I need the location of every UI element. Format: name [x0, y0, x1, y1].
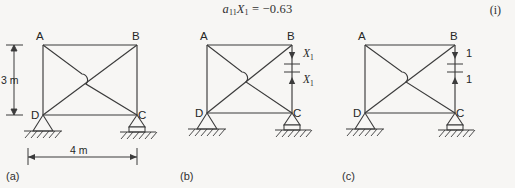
- support-pin-D: [24, 115, 62, 138]
- equation-row: a11X1 = −0.63 (i): [0, 2, 515, 24]
- ground-hatching-C: [439, 130, 475, 137]
- force-arrow-up: [452, 77, 458, 84]
- dim-arrow-bottom: [11, 109, 17, 115]
- node-label-D: D: [195, 107, 203, 119]
- dimension-span: 4 m: [28, 144, 137, 165]
- cut-forces-c: 1 1: [447, 47, 472, 85]
- node-label-D: D: [31, 109, 39, 121]
- panel-caption-c: (c): [342, 170, 355, 182]
- node-label-C: C: [293, 107, 301, 119]
- equation-coefficient-subscript: 11: [229, 8, 237, 17]
- force-label-lower: 1: [466, 73, 472, 85]
- truss-members-b: [207, 45, 292, 113]
- node-label-A: A: [200, 30, 208, 42]
- ground-hatching-D: [25, 131, 61, 138]
- dimension-span-label: 4 m: [70, 144, 88, 156]
- node-label-B: B: [450, 30, 458, 42]
- ground-hatching-D: [347, 129, 383, 136]
- figure-panel-a: 3 m: [0, 28, 172, 188]
- figure-page: a11X1 = −0.63 (i) 3 m: [0, 0, 515, 188]
- dim-arrow-right: [130, 154, 137, 160]
- dim-arrow-top: [11, 45, 17, 51]
- node-label-B: B: [132, 30, 140, 42]
- force-arrow-down: [452, 52, 458, 59]
- figure-panel-b: X1 X1: [172, 28, 340, 188]
- force-label-lower: X1: [302, 73, 314, 88]
- truss-diagram-c: 1 1: [340, 28, 515, 188]
- cut-forces-b: X1 X1: [284, 47, 314, 88]
- ground-hatching-C: [276, 130, 312, 137]
- node-label-A: A: [358, 30, 366, 42]
- truss-diagram-b: X1 X1: [172, 28, 340, 188]
- node-label-A: A: [36, 30, 44, 42]
- equation-expression: a11X1 = −0.63: [0, 2, 515, 17]
- force-label-upper: X1: [302, 47, 314, 62]
- equation-variable: X: [237, 2, 245, 16]
- force-label-upper: 1: [466, 47, 472, 59]
- dim-arrow-left: [28, 154, 35, 160]
- dimension-height: 3 m: [1, 45, 23, 115]
- panel-caption-a: (a): [6, 170, 19, 182]
- truss-members-c: [365, 45, 455, 113]
- support-pin-D: [346, 113, 384, 136]
- force-arrow-down: [289, 52, 295, 59]
- node-label-D: D: [353, 107, 361, 119]
- ground-hatching-C: [121, 132, 157, 139]
- equation-equals: =: [252, 2, 259, 16]
- truss-members-a: [43, 45, 137, 115]
- force-arrow-up: [289, 77, 295, 84]
- support-pin-D: [188, 113, 226, 136]
- equation-variable-subscript: 1: [245, 8, 249, 17]
- equation-result: −0.63: [262, 2, 292, 16]
- node-label-B: B: [287, 30, 295, 42]
- figure-panel-c: 1 1: [340, 28, 515, 188]
- equation-tag: (i): [490, 3, 501, 18]
- panel-caption-b: (b): [180, 170, 193, 182]
- node-label-C: C: [456, 107, 464, 119]
- ground-hatching-D: [189, 129, 225, 136]
- dimension-height-label: 3 m: [1, 74, 19, 86]
- truss-diagram-a: 3 m: [0, 28, 172, 188]
- node-label-C: C: [138, 109, 146, 121]
